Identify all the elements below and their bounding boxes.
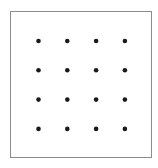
grid-dot-r4-c1 [36, 127, 41, 132]
grid-dot-r2-c3 [94, 68, 99, 73]
grid-dot-r4-c2 [65, 127, 70, 132]
grid-dot-r3-c1 [36, 97, 41, 102]
grid-dot-r1-c1 [36, 39, 41, 44]
grid-dot-r4-c3 [94, 127, 99, 132]
grid-dot-r2-c4 [123, 68, 128, 73]
grid-dot-r2-c2 [65, 68, 70, 73]
grid-dot-r3-c4 [123, 97, 128, 102]
grid-dot-r1-c3 [94, 39, 99, 44]
grid-dot-r3-c3 [94, 97, 99, 102]
grid-dot-r4-c4 [123, 127, 128, 132]
dot-grid [0, 0, 158, 168]
grid-dot-r2-c1 [36, 68, 41, 73]
grid-dot-r3-c2 [65, 97, 70, 102]
grid-dot-r1-c2 [65, 39, 70, 44]
grid-dot-r1-c4 [123, 39, 128, 44]
